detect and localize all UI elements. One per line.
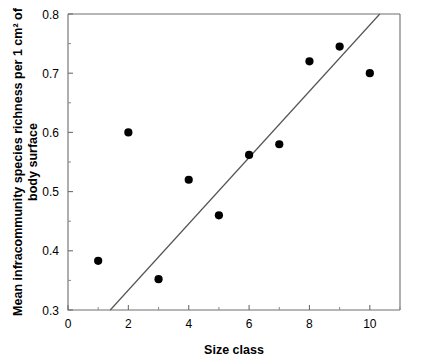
x-tick-label: 8 [306,317,313,331]
data-point [154,275,162,283]
axis-frame-left-bottom [68,14,400,310]
data-point [215,211,223,219]
tick-marks [68,14,400,310]
data-point [275,140,283,148]
regression-line [110,14,380,310]
data-point [366,69,374,77]
data-point [185,176,193,184]
axes [68,14,400,310]
y-axis-title-line1: Mean infracommunity species richness per… [11,7,25,316]
scatter-plot-figure: 0.30.40.50.60.70.80246810 Size classMean… [0,0,445,364]
data-point [245,151,253,159]
tick-labels: 0.30.40.50.60.70.80246810 [42,8,376,332]
data-point [94,257,102,265]
x-tick-label: 10 [363,317,377,331]
x-tick-label: 0 [65,317,72,331]
y-tick-label: 0.7 [42,67,59,81]
y-tick-label: 0.6 [42,126,59,140]
data-point [124,128,132,136]
y-tick-label: 0.4 [42,244,59,258]
x-axis-title: Size class [204,343,264,357]
y-axis-title-group: Mean infracommunity species richness per… [11,7,40,316]
x-tick-label: 4 [185,317,192,331]
x-tick-label: 6 [246,317,253,331]
y-axis-title-line2: body surface [26,123,40,201]
y-tick-label: 0.8 [42,8,59,22]
data-point [305,57,313,65]
data-points [94,42,374,283]
y-tick-label: 0.3 [42,304,59,318]
chart-canvas: 0.30.40.50.60.70.80246810 Size classMean… [0,0,445,364]
trendline [110,14,380,310]
data-point [336,42,344,50]
x-tick-label: 2 [125,317,132,331]
y-tick-label: 0.5 [42,185,59,199]
